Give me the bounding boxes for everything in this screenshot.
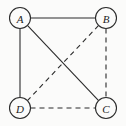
node-a-label: A <box>16 13 24 25</box>
node-d[interactable]: D <box>10 98 31 119</box>
edge-layer <box>20 18 106 108</box>
graph-diagram: A B C D <box>0 0 126 126</box>
edge-a-c <box>27 25 98 100</box>
graph-canvas: A B C D <box>0 0 126 126</box>
node-b[interactable]: B <box>96 8 117 29</box>
node-c[interactable]: C <box>96 98 117 119</box>
node-d-label: D <box>15 103 24 115</box>
node-a[interactable]: A <box>10 8 31 29</box>
node-c-label: C <box>102 103 110 115</box>
node-b-label: B <box>103 13 110 25</box>
